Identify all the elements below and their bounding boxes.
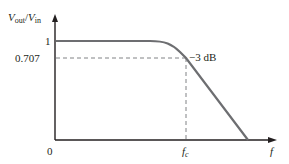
y-tick-0707: 0.707 bbox=[15, 53, 40, 64]
x-axis-arrow-icon bbox=[268, 137, 277, 143]
response-curve bbox=[56, 41, 248, 140]
annotation-3db: −3 dB bbox=[189, 52, 216, 63]
x-tick-origin: 0 bbox=[47, 146, 53, 157]
low-pass-response-chart bbox=[0, 0, 289, 164]
y-axis-label: Vout/Vin bbox=[8, 12, 41, 25]
y-tick-1: 1 bbox=[45, 36, 51, 47]
x-axis-label: f bbox=[270, 146, 273, 157]
y-axis-arrow-icon bbox=[52, 14, 58, 22]
x-tick-fc: fc bbox=[182, 146, 189, 159]
